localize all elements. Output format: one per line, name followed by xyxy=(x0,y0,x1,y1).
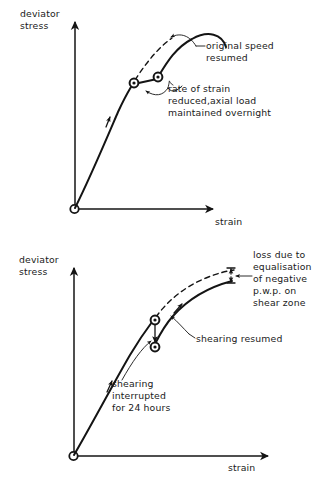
top-chart-annotation-original-speed-line2: resumed xyxy=(206,52,248,63)
top-chart-x-axis-label: strain xyxy=(215,216,242,227)
top-chart-annotation-rate-line1: rate of strain xyxy=(168,83,230,94)
bottom-chart-annotation-resumed-line1: shearing resumed xyxy=(196,333,282,344)
bottom-chart-annotation-interrupted-line3: for 24 hours xyxy=(112,402,170,413)
figure-svg: deviator stress strain original speed re… xyxy=(0,0,331,487)
figure-container: deviator stress strain original speed re… xyxy=(0,0,331,487)
top-chart-y-axis-label-line1: deviator xyxy=(20,8,60,19)
bottom-chart-annotation-loss-line3: of negative xyxy=(253,273,307,284)
bottom-chart-marker-restart xyxy=(151,343,160,352)
bottom-chart-y-axis-label-line2: stress xyxy=(19,266,47,277)
bottom-chart-marker-interrupted xyxy=(151,316,160,325)
top-chart-annotation-rate-line3: maintained overnight xyxy=(168,107,271,118)
bottom-chart-x-axis-label: strain xyxy=(228,462,255,473)
bottom-chart-annotation-loss-line2: equalisation xyxy=(253,261,312,272)
bottom-chart-annotation-loss-line1: loss due to xyxy=(253,249,306,260)
top-chart-marker-speed-resumed xyxy=(154,73,163,82)
bottom-chart-annotation-loss-line5: shear zone xyxy=(253,297,306,308)
top-chart-annotation-rate-line2: reduced,axial load xyxy=(168,95,256,106)
bottom-chart-y-axis-label-line1: deviator xyxy=(19,254,59,265)
top-chart-y-axis-label-line2: stress xyxy=(20,20,48,31)
canvas-background xyxy=(0,0,331,487)
bottom-chart-origin-marker xyxy=(69,452,77,460)
bottom-chart-annotation-loss-line4: p.w.p. on xyxy=(253,285,296,296)
top-chart-annotation-original-speed-line1: original speed xyxy=(206,40,274,51)
top-chart-origin-marker xyxy=(70,205,78,213)
bottom-chart-annotation-interrupted-line2: interrupted xyxy=(112,390,166,401)
top-chart-marker-rate-reduced xyxy=(130,79,139,88)
bottom-chart-annotation-interrupted-line1: shearing xyxy=(112,378,154,389)
